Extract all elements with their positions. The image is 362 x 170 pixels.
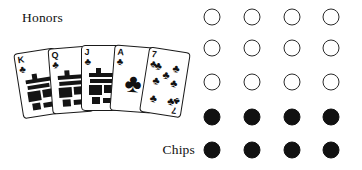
chip-filled-r4-c1: [204, 109, 221, 126]
chip-open-r2-c2: [244, 40, 261, 57]
chip-filled-r4-c3: [284, 109, 301, 126]
chip-filled-r5-c3: [284, 142, 301, 159]
club-suit-icon: ♣: [124, 70, 143, 97]
club-suit-icon: ♣: [169, 78, 178, 90]
court-figure-shape: [28, 90, 42, 102]
chip-open-r2-c3: [284, 40, 301, 57]
court-figure-shape: [63, 99, 71, 106]
court-figure-shape: [89, 73, 115, 78]
chip-open-r3-c4: [323, 74, 340, 91]
court-figure-shape: [92, 97, 100, 103]
court-figure-shape: [33, 103, 42, 111]
court-figure-shape: [57, 74, 83, 81]
chip-open-r3-c3: [284, 74, 301, 91]
court-figure-shape: [31, 74, 37, 80]
chip-open-r1-c4: [323, 9, 340, 26]
chip-open-r2-c1: [204, 40, 221, 57]
court-figure-shape: [89, 85, 102, 95]
chip-filled-r4-c4: [323, 109, 340, 126]
chip-open-r2-c4: [323, 40, 340, 57]
court-figure-shape: [96, 68, 101, 74]
club-suit-icon: ♣: [172, 63, 181, 75]
chip-filled-r4-c2: [244, 109, 261, 126]
court-figure-shape: [60, 81, 82, 87]
honors-and-chips-figure: Honors K♣K♣Q♣Q♣J♣J♣A♣A♣♣7♣7♣♣♣♣♣♣♣♣ Chip…: [0, 0, 362, 170]
court-figure-shape: [59, 87, 73, 98]
chip-open-r3-c1: [204, 74, 221, 91]
chip-open-r1-c2: [244, 9, 261, 26]
chip-open-r1-c1: [204, 9, 221, 26]
club-suit-icon: ♣: [149, 92, 158, 104]
chip-filled-r5-c4: [323, 142, 340, 159]
club-suit-icon: ♣: [154, 60, 163, 72]
club-suit-icon: ♣: [167, 95, 176, 107]
chip-filled-r5-c2: [244, 142, 261, 159]
club-suit-icon: ♣: [162, 69, 171, 81]
club-suit-icon: ♣: [152, 75, 161, 87]
chip-filled-r5-c1: [204, 142, 221, 159]
court-figure-shape: [90, 79, 112, 83]
chip-open-r1-c3: [284, 9, 301, 26]
chip-open-r3-c2: [244, 74, 261, 91]
court-figure-shape: [64, 70, 70, 76]
